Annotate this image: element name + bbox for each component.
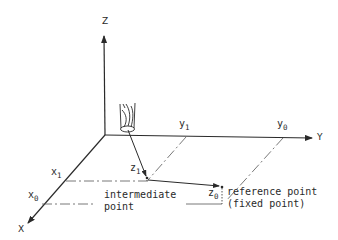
reference-point — [221, 186, 224, 189]
y1-label: y1 — [179, 119, 190, 129]
path-to-reference — [148, 180, 219, 186]
x-axis — [28, 135, 105, 223]
intermediate-point-label-line1: intermediate — [104, 190, 176, 200]
reference-point-label-line2: (fixed point) — [227, 199, 305, 209]
x-axis-label: X — [18, 225, 24, 234]
z1-label: z1 — [130, 163, 141, 173]
z0-label: z0 — [208, 188, 219, 198]
intermediate-point-label-line2: point — [104, 202, 134, 212]
y-axis-label: Y — [317, 133, 323, 142]
reference-point-label-line1: reference point — [227, 187, 317, 197]
x0-label: x0 — [28, 190, 39, 200]
z-axis-label: Z — [102, 17, 108, 26]
x1-label: x1 — [51, 167, 62, 177]
tool — [120, 103, 135, 132]
y1-projection — [148, 137, 186, 180]
coordinate-diagram: Z Y X y1 y0 x1 x0 z1 z0 intermediate poi… — [0, 0, 338, 240]
y0-label: y0 — [277, 119, 288, 129]
y-axis — [105, 135, 312, 138]
z-axis — [104, 36, 105, 135]
